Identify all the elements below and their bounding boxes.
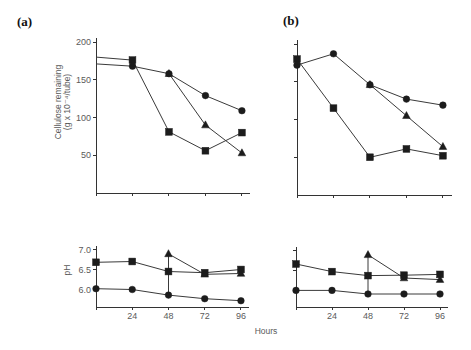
circle-marker	[238, 297, 245, 304]
triangle-marker	[364, 251, 372, 258]
square-marker	[202, 147, 209, 154]
square-marker	[329, 268, 336, 275]
circle-marker	[403, 96, 410, 103]
panel-label-a: (a)	[17, 14, 32, 29]
y-axis-title-cellulose: Cellulose remaining (g x 10⁻⁴/tube)	[53, 64, 72, 139]
square-marker	[330, 105, 337, 112]
square-marker	[165, 268, 172, 275]
panel-a-cellulose-plot: 50100150200	[76, 37, 250, 196]
y-axis-title-line-2: (g x 10⁻⁴/tube)	[62, 74, 72, 131]
circle-marker	[239, 107, 246, 114]
y-axis-title-ph: pH	[62, 265, 72, 276]
square-marker	[239, 129, 246, 136]
x-tick-label: 48	[363, 311, 373, 321]
square-marker	[403, 146, 410, 153]
y-tick-label: 7.0	[78, 245, 91, 255]
triangle-marker	[403, 112, 411, 119]
square-marker	[367, 154, 374, 161]
x-tick-label: 72	[200, 311, 210, 321]
circle-marker	[201, 295, 208, 302]
panel-b-ph-plot: 24487296	[293, 247, 448, 321]
series-line-square	[297, 59, 443, 157]
panel-b-cellulose-plot	[294, 40, 452, 198]
square-marker	[93, 259, 100, 266]
y-tick-label: 6.0	[78, 285, 91, 295]
circle-marker	[329, 287, 336, 294]
y-tick-label: 50	[81, 150, 91, 160]
circle-marker	[437, 291, 444, 298]
y-tick-label: 200	[76, 37, 91, 47]
square-marker	[293, 261, 300, 268]
y-tick-label: 100	[76, 113, 91, 123]
square-marker	[166, 128, 173, 135]
circle-marker	[440, 102, 447, 109]
square-marker	[129, 258, 136, 265]
figure: (a) (b) Cellulose remaining (g x 10⁻⁴/tu…	[0, 0, 471, 350]
y-tick-label: 150	[76, 75, 91, 85]
panel-a-ph-plot: 6.06.57.024487296	[78, 245, 249, 322]
triangle-marker	[439, 142, 447, 149]
plots-container: 501001502006.06.57.02448729624487296	[76, 37, 452, 321]
x-tick-label: 48	[163, 311, 173, 321]
triangle-marker	[238, 149, 246, 156]
square-marker	[440, 152, 447, 159]
circle-marker	[129, 63, 136, 70]
square-marker	[365, 272, 372, 279]
circle-marker	[401, 291, 408, 298]
series-line-triangle	[169, 74, 242, 153]
square-marker	[294, 56, 301, 63]
triangle-marker	[165, 250, 173, 257]
square-marker	[129, 57, 136, 64]
circle-marker	[93, 285, 100, 292]
x-tick-label: 24	[127, 311, 137, 321]
circle-marker	[165, 292, 172, 299]
y-tick-label: 6.5	[78, 265, 91, 275]
x-tick-label: 96	[435, 311, 445, 321]
series-line-circle	[297, 54, 443, 105]
x-tick-label: 96	[236, 311, 246, 321]
circle-marker	[330, 51, 337, 58]
x-axis-title-hours: Hours	[255, 326, 278, 336]
circle-marker	[202, 92, 209, 99]
x-tick-label: 24	[327, 311, 337, 321]
circle-marker	[293, 287, 300, 294]
x-tick-label: 72	[399, 311, 409, 321]
panel-label-b: (b)	[283, 13, 299, 28]
circle-marker	[129, 286, 136, 293]
circle-marker	[294, 62, 301, 69]
circle-marker	[365, 291, 372, 298]
